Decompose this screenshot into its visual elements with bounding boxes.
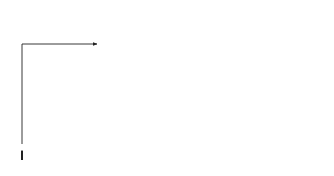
arrow-A xyxy=(22,44,97,144)
network-diagram xyxy=(0,0,334,176)
